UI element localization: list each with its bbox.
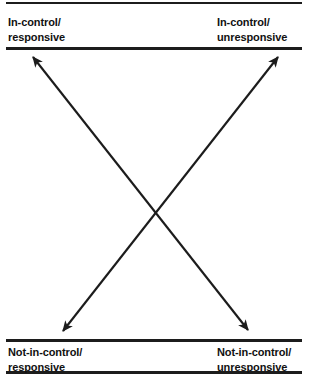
- diagonal-arrows-group: [0, 0, 311, 380]
- control-responsiveness-matrix: In-control/ responsive In-control/ unres…: [0, 0, 311, 380]
- quadrant-label-bottom-right: Not-in-control/ unresponsive: [217, 345, 291, 374]
- diagonal-arrow-bl-tr: [63, 57, 278, 331]
- quadrant-label-top-left: In-control/ responsive: [8, 15, 65, 44]
- quadrant-label-bottom-left: Not-in-control/ responsive: [8, 345, 82, 374]
- diagonal-arrow-tl-br: [33, 57, 248, 330]
- quadrant-label-top-right: In-control/ unresponsive: [217, 15, 287, 44]
